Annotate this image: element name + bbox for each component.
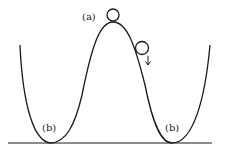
label-b-left: (b) (42, 122, 56, 133)
ball-top-icon (107, 9, 119, 21)
label-b-right: (b) (165, 122, 179, 133)
ball-rolling-icon (136, 42, 149, 55)
double-well-diagram: (a) (b) (b) (0, 0, 225, 155)
down-arrow-icon (146, 56, 151, 65)
label-a: (a) (82, 11, 96, 22)
